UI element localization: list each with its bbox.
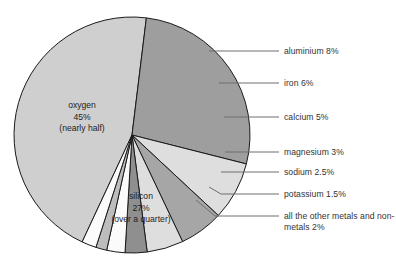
inner-label-oxygen-value: 45% — [36, 112, 128, 124]
inner-label-silicon-note: (over a quarter) — [83, 214, 199, 226]
callout-label-calcium: calcium 5% — [284, 112, 328, 123]
callout-label-aluminium: aluminium 8% — [284, 46, 339, 57]
inner-label-silicon-name: silicon — [83, 191, 199, 203]
inner-label-silicon: silicon 27% (over a quarter) — [83, 191, 199, 226]
inner-label-oxygen-name: oxygen — [36, 100, 128, 112]
inner-label-oxygen: oxygen 45% (nearly half) — [36, 100, 128, 135]
inner-label-oxygen-note: (nearly half) — [36, 123, 128, 135]
callout-label-iron: iron 6% — [284, 78, 314, 89]
callout-label-sodium: sodium 2.5% — [284, 167, 334, 178]
inner-label-silicon-value: 27% — [83, 203, 199, 215]
callout-label-other-line1: all the other metals — [284, 211, 358, 221]
callout-label-other: all the other metals and non-metals 2% — [284, 211, 396, 234]
callout-label-potassium: potassium 1.5% — [284, 189, 346, 200]
callout-label-magnesium: magnesium 3% — [284, 147, 344, 158]
